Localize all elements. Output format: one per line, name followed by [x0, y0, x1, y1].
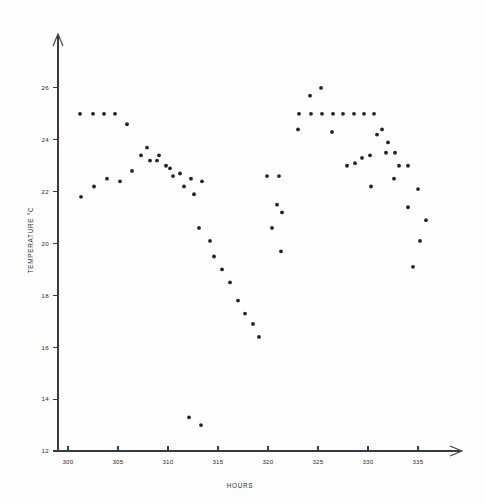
data-point	[171, 174, 175, 178]
data-point	[212, 255, 216, 259]
x-ticks-group: 300305310315320325330335	[62, 446, 423, 465]
data-point	[228, 281, 232, 285]
data-point	[265, 174, 269, 178]
y-axis-title: TEMPERATURE °C	[27, 207, 34, 274]
data-point	[393, 151, 397, 155]
data-point	[277, 174, 281, 178]
x-tick-label: 315	[212, 458, 223, 465]
data-point	[369, 185, 373, 189]
data-point	[187, 415, 191, 419]
data-point	[406, 205, 410, 209]
data-point	[145, 146, 149, 150]
y-tick-label: 24	[42, 136, 50, 143]
data-point	[78, 112, 82, 116]
y-tick-label: 20	[42, 240, 50, 247]
data-point	[236, 299, 240, 303]
data-points-group	[78, 86, 428, 427]
data-point	[113, 112, 117, 116]
data-point	[320, 112, 324, 116]
data-point	[360, 156, 364, 160]
data-point	[341, 112, 345, 116]
data-point	[251, 322, 255, 326]
y-tick-label: 18	[42, 292, 50, 299]
data-point	[243, 312, 247, 316]
data-point	[79, 195, 83, 199]
data-point	[182, 185, 186, 189]
data-point	[102, 112, 106, 116]
data-point	[208, 239, 212, 243]
data-point	[91, 112, 95, 116]
plot-canvas: 1214161820222426 30030531031532032533033…	[0, 0, 485, 504]
data-point	[308, 94, 312, 98]
data-point	[297, 112, 301, 116]
x-tick-label: 320	[262, 458, 273, 465]
data-point	[164, 164, 168, 168]
data-point	[392, 177, 396, 181]
axes-group	[53, 34, 462, 456]
data-point	[168, 166, 172, 170]
data-point	[118, 179, 122, 183]
data-point	[270, 226, 274, 230]
data-point	[178, 172, 182, 176]
data-point	[362, 112, 366, 116]
data-point	[397, 164, 401, 168]
data-point	[139, 153, 143, 157]
data-point	[352, 112, 356, 116]
data-point	[416, 187, 420, 191]
data-point	[200, 179, 204, 183]
data-point	[192, 192, 196, 196]
data-point	[368, 153, 372, 157]
x-tick-label: 330	[362, 458, 373, 465]
data-point	[220, 268, 224, 272]
x-tick-label: 300	[62, 458, 73, 465]
data-point	[155, 159, 159, 163]
y-tick-label: 16	[42, 344, 50, 351]
y-ticks-group: 1214161820222426	[42, 84, 58, 454]
x-tick-label: 310	[162, 458, 173, 465]
data-point	[130, 169, 134, 173]
data-point	[386, 140, 390, 144]
data-point	[418, 239, 422, 243]
data-point	[372, 112, 376, 116]
data-point	[280, 211, 284, 215]
data-point	[197, 226, 201, 230]
data-point	[125, 122, 129, 126]
data-point	[157, 153, 161, 157]
data-point	[279, 249, 283, 253]
y-tick-label: 14	[42, 395, 50, 402]
x-tick-label: 305	[112, 458, 123, 465]
data-point	[375, 133, 379, 137]
y-tick-label: 22	[42, 188, 50, 195]
scatter-plot-figure: 1214161820222426 30030531031532032533033…	[0, 0, 485, 504]
data-point	[148, 159, 152, 163]
data-point	[331, 112, 335, 116]
data-point	[384, 151, 388, 155]
data-point	[309, 112, 313, 116]
data-point	[319, 86, 323, 90]
x-axis-title: HOURS	[227, 482, 254, 489]
data-point	[411, 265, 415, 269]
x-tick-label: 335	[412, 458, 423, 465]
data-point	[296, 128, 300, 132]
y-tick-label: 26	[42, 84, 50, 91]
data-point	[199, 423, 203, 427]
data-point	[105, 177, 109, 181]
y-tick-label: 12	[42, 447, 50, 454]
data-point	[345, 164, 349, 168]
data-point	[189, 177, 193, 181]
data-point	[330, 130, 334, 134]
data-point	[353, 161, 357, 165]
x-tick-label: 325	[312, 458, 323, 465]
data-point	[92, 185, 96, 189]
data-point	[275, 203, 279, 207]
data-point	[406, 164, 410, 168]
data-point	[257, 335, 261, 339]
data-point	[424, 218, 428, 222]
data-point	[380, 128, 384, 132]
